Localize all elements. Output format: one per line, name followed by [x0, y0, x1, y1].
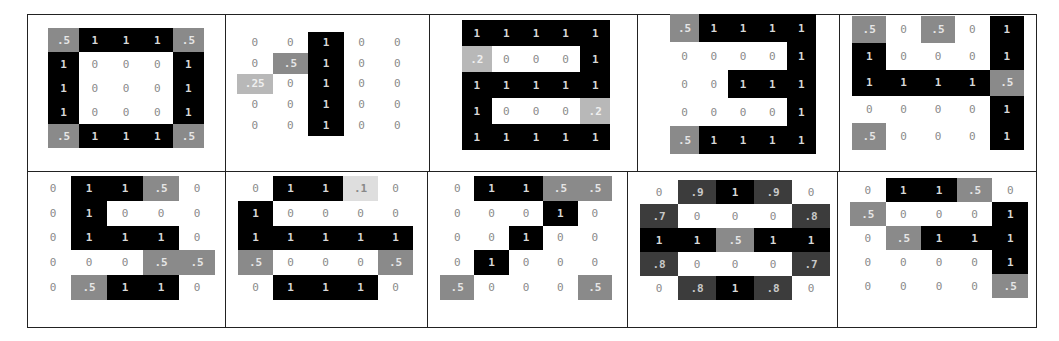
pixel-grid-4: .50.501100011111.500001.50001	[852, 16, 1024, 150]
pixel-cell: 0	[273, 74, 309, 95]
pixel-cell: 0	[852, 96, 886, 123]
pixel-cell: .7	[792, 252, 830, 276]
pixel-cell: 1	[551, 124, 581, 150]
pixel-grid-1: 001000.5100.2501000010000100	[237, 32, 415, 136]
pixel-cell: .9	[754, 180, 792, 204]
pixel-cell: 1	[79, 124, 110, 148]
pixel-cell: .5	[990, 70, 1024, 97]
pixel-cell: 1	[462, 20, 492, 46]
pixel-cell: 0	[379, 53, 415, 74]
pixel-cell: 0	[992, 178, 1028, 202]
pixel-cell: 0	[578, 201, 612, 226]
pixel-cell: 1	[474, 250, 508, 275]
pixel-cell: .5	[716, 228, 754, 252]
pixel-cell: .5	[992, 274, 1028, 298]
pixel-cell: 0	[142, 52, 173, 76]
pixel-cell: 0	[142, 100, 173, 124]
pixel-cell: 1	[492, 124, 522, 150]
pixel-cell: 1	[521, 124, 551, 150]
pixel-cell: 0	[440, 176, 474, 201]
pixel-cell: 0	[379, 32, 415, 53]
pixel-cell: 0	[79, 100, 110, 124]
pixel-grid-2: 11111.20001111111000.211111	[462, 20, 610, 150]
pixel-cell: 1	[992, 202, 1028, 226]
pixel-cell: 0	[440, 201, 474, 226]
pixel-cell: 0	[238, 275, 273, 300]
pixel-cell: 1	[173, 76, 204, 100]
pixel-cell: 0	[758, 42, 787, 70]
pixel-cell: 0	[474, 275, 508, 300]
pixel-cell: 1	[107, 176, 143, 201]
pixel-cell: 1	[173, 100, 204, 124]
pixel-cell: .1	[343, 176, 378, 201]
pixel-cell: 1	[509, 176, 543, 201]
pixel-cell: 1	[521, 20, 551, 46]
pixel-cell: 0	[921, 274, 957, 298]
pixel-cell: 0	[492, 98, 522, 124]
pixel-cell: 0	[640, 180, 678, 204]
pixel-cell: 1	[990, 123, 1024, 150]
pixel-cell: 0	[35, 226, 71, 251]
pixel-cell: 1	[678, 228, 716, 252]
pixel-cell: .5	[670, 126, 699, 154]
pixel-cell: .8	[640, 252, 678, 276]
pixel-cell: 1	[143, 226, 179, 251]
pixel-cell: 0	[179, 176, 215, 201]
pixel-cell: .8	[754, 276, 792, 300]
pixel-cell: 0	[699, 42, 728, 70]
pixel-cell: 0	[521, 98, 551, 124]
pixel-cell: 0	[492, 46, 522, 72]
pixel-cell: 0	[107, 201, 143, 226]
pixel-cell: 1	[886, 178, 922, 202]
pixel-cell: 0	[850, 250, 886, 274]
pixel-cell: .5	[850, 202, 886, 226]
pixel-cell: 0	[343, 250, 378, 275]
pixel-cell: 0	[79, 52, 110, 76]
pixel-cell: 1	[990, 96, 1024, 123]
pixel-cell: 1	[462, 124, 492, 150]
pixel-cell: .5	[273, 53, 309, 74]
pixel-cell: 0	[543, 250, 577, 275]
pixel-cell: 1	[142, 28, 173, 52]
pixel-cell: 1	[110, 124, 141, 148]
pixel-cell: 1	[378, 226, 413, 251]
pixel-cell: 0	[728, 98, 757, 126]
pixel-cell: 0	[886, 123, 920, 150]
pixel-cell: .9	[678, 180, 716, 204]
pixel-cell: 0	[921, 202, 957, 226]
pixel-cell: 0	[699, 98, 728, 126]
pixel-cell: 1	[640, 228, 678, 252]
pixel-cell: 0	[273, 201, 308, 226]
pixel-cell: 0	[343, 201, 378, 226]
pixel-cell: 0	[79, 76, 110, 100]
pixel-cell: 1	[308, 74, 344, 95]
pixel-cell: 1	[852, 70, 886, 97]
pixel-cell: .7	[640, 204, 678, 228]
pixel-grid-6: 011.101000011111.5000.501110	[238, 176, 413, 300]
pixel-cell: 1	[521, 72, 551, 98]
pixel-cell: 1	[699, 126, 728, 154]
pixel-cell: 1	[79, 28, 110, 52]
pixel-cell: 0	[699, 70, 728, 98]
pixel-cell: .5	[578, 275, 612, 300]
pixel-cell: 0	[521, 46, 551, 72]
pixel-cell: .5	[48, 124, 79, 148]
pixel-cell: 0	[179, 226, 215, 251]
pixel-cell: 0	[551, 46, 581, 72]
pixel-cell: 0	[35, 176, 71, 201]
pixel-cell: .5	[71, 275, 107, 300]
pixel-cell: .5	[48, 28, 79, 52]
pixel-cell: 1	[921, 226, 957, 250]
pixel-cell: 1	[273, 176, 308, 201]
pixel-cell: 1	[754, 228, 792, 252]
pixel-cell: 1	[543, 201, 577, 226]
pixel-cell: 1	[308, 176, 343, 201]
pixel-cell: 1	[792, 228, 830, 252]
pixel-cell: 1	[957, 226, 993, 250]
pixel-cell: 1	[308, 94, 344, 115]
pixel-cell: 0	[110, 100, 141, 124]
pixel-cell: 1	[758, 14, 787, 42]
pixel-cell: 1	[509, 226, 543, 251]
pixel-cell: 0	[921, 96, 955, 123]
pixel-cell: .5	[886, 226, 922, 250]
